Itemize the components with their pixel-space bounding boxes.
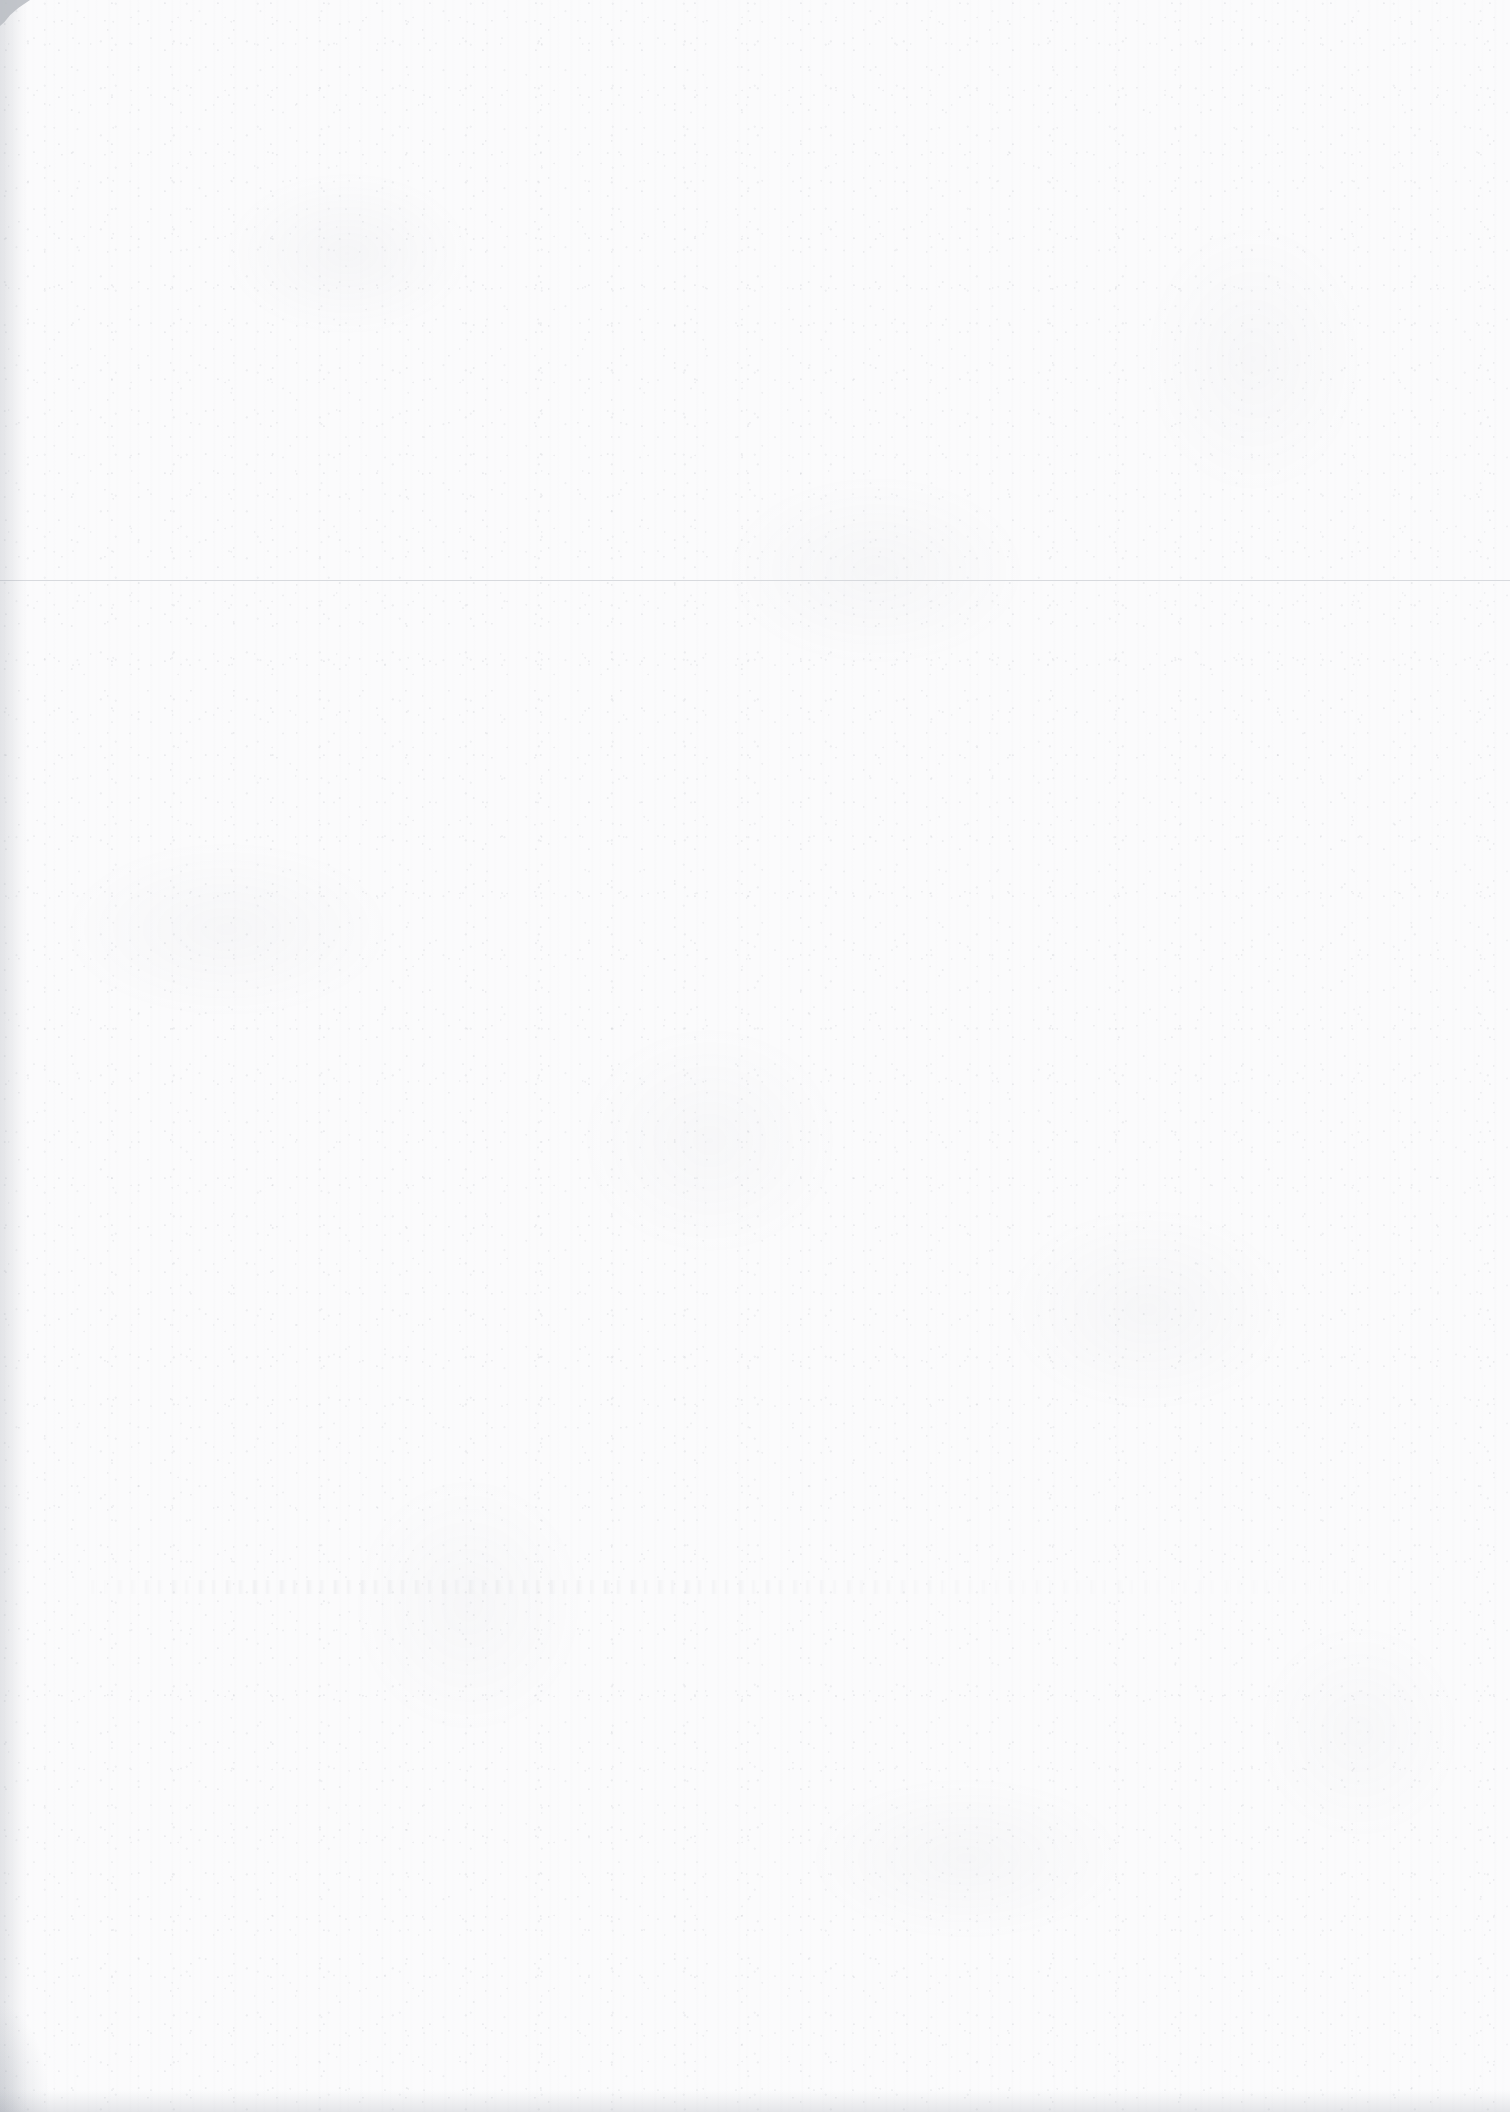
paper-grain-texture xyxy=(0,0,1510,2112)
edge-shadow-bottom xyxy=(0,2090,1510,2112)
paper-mottle-texture xyxy=(0,0,1510,2112)
horizontal-rule-upper xyxy=(0,580,1510,581)
edge-shadow-left xyxy=(0,0,26,2112)
scanned-page: Blank scanned page xyxy=(0,0,1510,2112)
reverse-side-bleed-through xyxy=(90,1580,1390,1594)
corner-notch-top-left xyxy=(0,0,30,26)
page-caption: Blank scanned page xyxy=(0,0,1,1)
corner-shadow-bottom-left xyxy=(0,1962,70,2112)
scanner-streak-texture xyxy=(0,0,1510,2112)
